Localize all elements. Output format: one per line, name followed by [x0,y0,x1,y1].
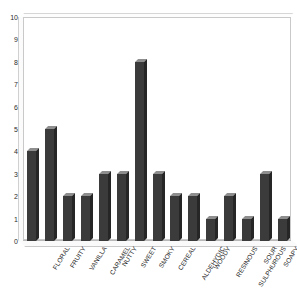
bar-side-face [90,193,93,241]
bar-body [153,174,162,241]
x-axis-label-vanilla: VANILLA [87,245,107,272]
y-axis-tick-label: 4 [14,148,18,155]
bar-sulphurous [224,17,233,241]
bar-sweet [117,17,126,241]
x-axis-label-cereal: CEREAL [177,245,197,271]
bar-side-face [197,193,200,241]
y-axis-tick-label: 8 [14,58,18,65]
y-axis-tick-label: 2 [14,193,18,200]
y-axis-tick-label: 7 [14,81,18,88]
bar-caramel [81,17,90,241]
x-axis-label-floral: FLORAL [51,245,71,271]
bar-body [242,219,251,241]
y-axis-tick-label: 3 [14,170,18,177]
bar-side-face [215,216,218,241]
y-axis-tick-label: 1 [14,215,18,222]
bar-aldehydic [170,17,179,241]
bar-nutty [99,17,108,241]
bar-woody [188,17,197,241]
bar-side-face [251,216,254,241]
x-axis-label-fruity: FRUITY [68,245,87,269]
bar-body [260,174,269,241]
bar-smoky [135,17,144,241]
bar-side-face [287,216,290,241]
y-axis-tick-label: 9 [14,36,18,43]
bar-musty [278,17,287,241]
bar-body [188,196,197,241]
x-axis-labels: FLORALFRUITYVANILLACARAMELNUTTYSWEETSMOK… [23,243,297,306]
y-axis-tick-label: 5 [14,126,18,133]
bar-cereal [153,17,162,241]
bar-body [117,174,126,241]
bar-body [206,219,215,241]
bar-side-face [269,171,272,241]
bar-fruity [45,17,54,241]
y-axis: 012345678910 [0,0,23,306]
bar-body [135,62,144,241]
x-axis-label-sweet: SWEET [139,245,157,269]
bar-resinous [206,17,215,241]
y-axis-tick-label: 6 [14,103,18,110]
bar-chart: 012345678910 FLORALFRUITYVANILLACARAMELN… [0,0,297,306]
x-axis-label-smoky: SMOKY [157,245,176,269]
bar-side-face [162,171,165,241]
bar-sour [242,17,251,241]
bar-side-face [36,148,39,241]
bar-side-face [179,193,182,241]
bar-side-face [72,193,75,241]
x-axis-label-resinous: RESINOUS [234,245,258,278]
bar-body [99,174,108,241]
bar-vanilla [63,17,72,241]
bar-body [63,196,72,241]
bar-side-face [54,126,57,241]
bar-body [170,196,179,241]
bar-side-face [233,193,236,241]
y-axis-tick-label: 10 [10,14,18,21]
bar-body [27,151,36,241]
bar-body [45,129,54,241]
bar-side-face [144,59,147,241]
bar-soapy [260,17,269,241]
bar-side-face [126,171,129,241]
bar-body [81,196,90,241]
y-axis-tick-label: 0 [14,238,18,245]
bars-layer [23,17,291,241]
bar-floral [27,17,36,241]
bar-body [224,196,233,241]
bar-body [278,219,287,241]
bar-side-face [108,171,111,241]
